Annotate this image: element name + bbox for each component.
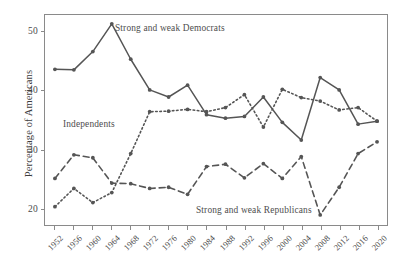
data-point xyxy=(337,108,341,112)
data-point xyxy=(91,50,95,54)
data-point xyxy=(110,22,114,26)
data-point xyxy=(299,155,303,159)
x-tick-mark xyxy=(302,226,303,230)
data-point xyxy=(356,152,360,156)
x-tick-mark xyxy=(206,226,207,230)
data-point xyxy=(72,153,76,157)
x-tick-mark xyxy=(245,226,246,230)
data-point xyxy=(299,96,303,100)
data-point xyxy=(280,87,284,91)
data-point xyxy=(280,120,284,124)
data-point xyxy=(205,165,209,169)
data-point xyxy=(261,95,265,99)
data-point xyxy=(299,138,303,142)
x-tick-mark xyxy=(359,226,360,230)
data-point xyxy=(186,83,190,87)
y-axis-tick-labels: 20304050 xyxy=(0,0,38,276)
data-point xyxy=(167,109,171,113)
line-chart: Percentage of Americans 20304050 Strong … xyxy=(0,0,407,276)
series-label-democrats: Strong and weak Democrats xyxy=(115,23,225,33)
data-point xyxy=(53,205,57,209)
data-point xyxy=(148,187,152,191)
data-point xyxy=(129,182,133,186)
x-tick-mark xyxy=(130,226,131,230)
data-point xyxy=(53,67,57,71)
data-point xyxy=(110,191,114,195)
data-point xyxy=(356,122,360,126)
y-tick-mark xyxy=(41,150,45,151)
data-point xyxy=(224,162,228,166)
data-point xyxy=(129,57,133,61)
data-point xyxy=(318,213,322,217)
data-point xyxy=(224,116,228,120)
data-point xyxy=(243,176,247,180)
data-point xyxy=(148,88,152,92)
x-tick-mark xyxy=(187,226,188,230)
data-point xyxy=(318,99,322,103)
data-point xyxy=(72,187,76,191)
x-tick-mark xyxy=(54,226,55,230)
data-point xyxy=(337,185,341,189)
data-point xyxy=(91,156,95,160)
series-independents xyxy=(53,87,379,208)
x-tick-mark xyxy=(149,226,150,230)
data-point xyxy=(186,107,190,111)
x-tick-mark xyxy=(378,226,379,230)
series-label-republicans: Strong and weak Republicans xyxy=(196,205,312,215)
data-point xyxy=(129,152,133,156)
data-point xyxy=(261,125,265,129)
y-tick-label: 20 xyxy=(28,204,38,214)
data-point xyxy=(318,76,322,80)
x-tick-mark xyxy=(321,226,322,230)
data-point xyxy=(375,140,379,144)
data-point xyxy=(356,106,360,110)
y-tick-label: 50 xyxy=(28,26,38,36)
data-point xyxy=(243,115,247,119)
series-line xyxy=(55,142,377,215)
series-line xyxy=(55,89,377,206)
x-tick-mark xyxy=(226,226,227,230)
x-tick-mark xyxy=(111,226,112,230)
y-tick-mark xyxy=(41,31,45,32)
x-tick-mark xyxy=(283,226,284,230)
y-tick-label: 40 xyxy=(28,85,38,95)
data-point xyxy=(148,110,152,114)
y-tick-mark xyxy=(41,209,45,210)
data-point xyxy=(375,119,379,123)
x-tick-mark xyxy=(340,226,341,230)
data-point xyxy=(224,106,228,110)
data-point xyxy=(110,181,114,185)
x-tick-mark xyxy=(168,226,169,230)
data-point xyxy=(53,177,57,181)
data-point xyxy=(337,88,341,92)
x-tick-mark xyxy=(264,226,265,230)
y-tick-label: 30 xyxy=(28,145,38,155)
data-point xyxy=(261,162,265,166)
data-point xyxy=(167,185,171,189)
data-point xyxy=(167,95,171,99)
data-point xyxy=(243,93,247,97)
data-point xyxy=(72,68,76,72)
y-tick-mark xyxy=(41,90,45,91)
data-point xyxy=(280,177,284,181)
series-label-independents: Independents xyxy=(63,119,115,129)
data-point xyxy=(91,201,95,205)
data-point xyxy=(205,110,209,114)
x-tick-mark xyxy=(92,226,93,230)
x-tick-mark xyxy=(73,226,74,230)
data-point xyxy=(186,192,190,196)
